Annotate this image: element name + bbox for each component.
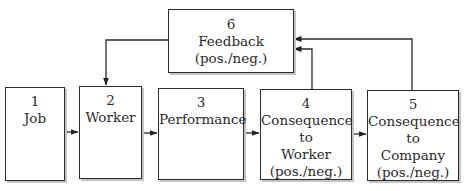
box-consequence-to-company: 5 Consequence to Company (pos./neg.) [367, 90, 459, 181]
box-worker: 2 Worker [79, 86, 142, 179]
box-label: Performance [159, 111, 243, 128]
box-label: Company [368, 147, 458, 164]
box-label: Consequence to [368, 113, 458, 147]
box-label: (pos./neg.) [169, 50, 293, 67]
box-label: Consequence to [261, 112, 351, 146]
box-number: 5 [368, 96, 458, 113]
box-number: 4 [261, 95, 351, 112]
box-label: (pos./neg.) [261, 163, 351, 180]
box-performance: 3 Performance [158, 88, 244, 180]
arrow-consequence-worker-to-feedback [294, 49, 312, 89]
box-number: 3 [159, 94, 243, 111]
box-job: 1 Job [5, 87, 65, 181]
box-label: Worker [80, 109, 141, 126]
box-label: (pos./neg.) [368, 164, 458, 181]
box-label: Feedback [169, 33, 293, 50]
box-number: 1 [6, 93, 64, 110]
box-feedback: 6 Feedback (pos./neg.) [168, 9, 294, 73]
box-label: Worker [261, 146, 351, 163]
box-consequence-to-worker: 4 Consequence to Worker (pos./neg.) [260, 89, 352, 180]
box-number: 2 [80, 92, 141, 109]
arrow-feedback-to-worker [106, 40, 168, 85]
box-label: Job [6, 110, 64, 127]
box-number: 6 [169, 16, 293, 33]
